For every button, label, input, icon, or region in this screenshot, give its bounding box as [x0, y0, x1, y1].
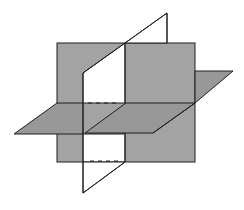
- three-planes-diagram: [0, 0, 244, 210]
- horizontal-plane-far-right: [195, 71, 233, 103]
- horizontal-plane-left: [14, 103, 83, 134]
- vertical-plane-lower-front: [83, 134, 125, 162]
